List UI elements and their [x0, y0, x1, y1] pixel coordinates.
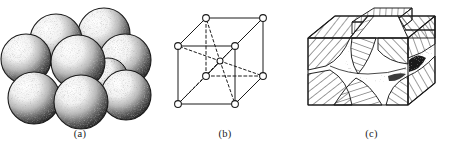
atom-node	[232, 43, 239, 50]
atom-node	[175, 43, 182, 50]
grain-structure-illustration	[290, 0, 453, 130]
grain-structure-svg	[290, 0, 453, 130]
close-packed-spheres-illustration	[0, 0, 160, 130]
grain-cube	[308, 8, 435, 105]
atom-node	[260, 15, 267, 22]
panel-a-caption: (a)	[0, 128, 160, 139]
spheres-svg	[0, 0, 160, 130]
figure-plate: (a)	[0, 0, 453, 167]
atom-node	[232, 101, 239, 108]
sphere	[8, 72, 60, 124]
atom-node	[175, 101, 182, 108]
sphere	[54, 75, 108, 129]
panel-b-caption: (b)	[160, 128, 290, 139]
sphere	[101, 70, 151, 120]
bcc-unit-cell-illustration	[160, 0, 290, 130]
atom-node	[203, 73, 210, 80]
unit-cell-svg	[160, 0, 290, 130]
atom-node	[260, 73, 267, 80]
atom-node	[203, 15, 210, 22]
centre-atom-node	[217, 58, 223, 64]
grain-region	[308, 38, 350, 70]
panel-bcc-unit-cell: (b)	[160, 0, 290, 167]
panel-c-caption: (c)	[290, 128, 453, 139]
sphere-cluster	[1, 8, 151, 129]
panel-close-packed-spheres: (a)	[0, 0, 160, 167]
panel-grain-structure: (c)	[290, 0, 453, 167]
grain-region	[351, 38, 376, 74]
grain-region	[378, 38, 408, 64]
